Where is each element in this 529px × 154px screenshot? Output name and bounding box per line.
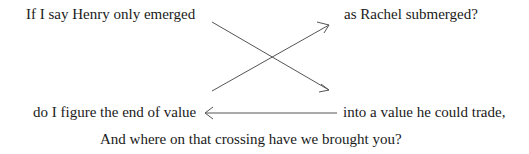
arrow-left-icon — [205, 107, 337, 119]
crossing-arrows — [0, 0, 529, 154]
